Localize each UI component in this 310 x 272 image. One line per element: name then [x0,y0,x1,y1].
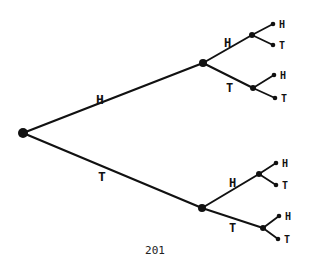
branch-leaf [252,35,273,45]
leaf-label: T [284,234,290,245]
leaf-node [271,22,276,27]
branch-label-level2: T [226,81,233,95]
level2-node [250,85,256,91]
leaf-label: T [281,93,287,104]
leaf-node [277,214,282,219]
leaf-label: H [282,158,288,169]
branch-leaf [252,24,273,35]
probability-tree-diagram: HTHTHTHTHTHTHT201 [0,0,310,272]
root-node [18,128,28,138]
leaf-node [273,96,278,101]
level2-node [260,225,266,231]
branch-leaf [259,174,276,185]
branch-label-level2: T [229,221,236,235]
leaf-label: H [279,19,285,30]
branch-label-level1: H [96,92,104,107]
branch-level1-t [23,133,202,208]
leaf-label: T [279,40,285,51]
leaf-label: T [282,180,288,191]
level1-node [198,204,206,212]
leaf-node [272,73,277,78]
level2-node [256,171,262,177]
leaf-label: H [285,211,291,222]
branch-label-level1: T [98,169,106,184]
branch-label-level2: H [224,36,231,50]
leaf-node [274,161,279,166]
leaf-node [276,237,281,242]
branch-leaf [253,75,274,88]
branch-label-level2: H [229,176,236,190]
branch-leaf [253,88,275,98]
page-number: 201 [145,244,165,257]
level2-node [249,32,255,38]
level1-node [199,59,207,67]
branch-level1-h [23,63,203,133]
leaf-node [274,183,279,188]
branch-leaf [259,163,276,174]
leaf-label: H [280,70,286,81]
leaf-node [271,43,276,48]
